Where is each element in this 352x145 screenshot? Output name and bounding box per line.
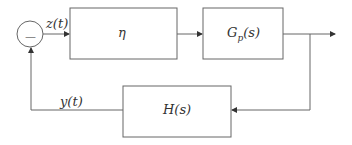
plant-label-tail: (s) bbox=[243, 25, 260, 40]
controller-label: η bbox=[118, 25, 126, 40]
feedback-signal-label: y(t) bbox=[60, 94, 83, 109]
plant-label-base: G bbox=[227, 25, 237, 40]
feedback-label: H(s) bbox=[163, 102, 191, 117]
feedback-branch-arrow bbox=[232, 34, 310, 110]
summing-sign: — bbox=[25, 30, 36, 43]
error-signal-label: z(t) bbox=[46, 16, 68, 31]
plant-label: Gp(s) bbox=[227, 25, 260, 43]
